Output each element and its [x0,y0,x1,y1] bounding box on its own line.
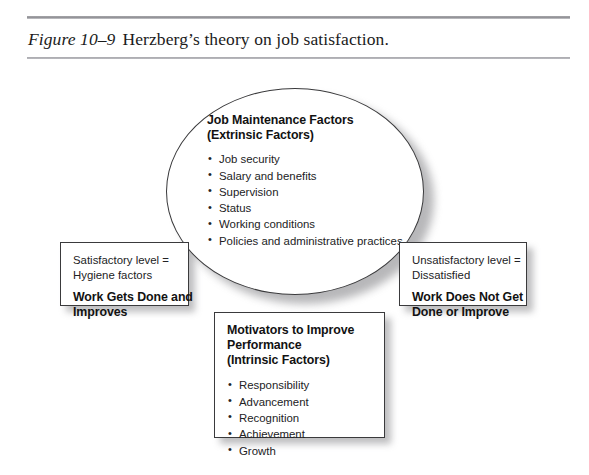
bottom-box-bullet-list: Responsibility Advancement Recognition A… [227,377,373,458]
left-box-line1: Satisfactory level = [73,253,177,268]
ellipse-heading-line1: Job Maintenance Factors [207,113,419,128]
list-item: Supervision [207,184,419,200]
list-item: Responsibility [227,377,373,393]
satisfactory-level-box: Satisfactory level = Hygiene factors Wor… [60,242,189,306]
bottom-box-heading: Motivators to Improve Performance (Intri… [227,323,373,368]
left-box-line2: Hygiene factors [73,268,177,283]
ellipse-heading-line2: (Extrinsic Factors) [207,128,419,143]
unsatisfactory-level-box: Unsatisfactory level = Dissatisfied Work… [399,242,527,306]
left-box-emphasis-line1: Work Gets Done and [73,290,177,305]
job-maintenance-factors-ellipse: Job Maintenance Factors (Extrinsic Facto… [166,88,424,295]
caption-rule-bottom [27,57,570,59]
figure-caption: Figure 10–9Herzberg’s theory on job sati… [27,19,570,57]
motivators-box: Motivators to Improve Performance (Intri… [214,312,385,438]
right-box-content: Unsatisfactory level = Dissatisfied Work… [400,243,526,328]
bottom-box-heading-line1: Motivators to Improve [227,323,373,338]
right-box-line1: Unsatisfactory level = [412,253,515,268]
list-item: Recognition [227,410,373,426]
right-box-emphasis: Work Does Not Get Done or Improve [412,290,515,320]
right-box-subtext: Unsatisfactory level = Dissatisfied [412,253,515,283]
list-item: Advancement [227,394,373,410]
list-item: Salary and benefits [207,168,419,184]
figure-number: Figure 10–9 [28,29,115,49]
left-box-subtext: Satisfactory level = Hygiene factors [73,253,177,283]
right-box-emphasis-line2: Done or Improve [412,305,515,320]
right-box-emphasis-line1: Work Does Not Get [412,290,515,305]
left-box-emphasis-line2: Improves [73,305,177,320]
ellipse-heading: Job Maintenance Factors (Extrinsic Facto… [207,113,419,143]
left-box-content: Satisfactory level = Hygiene factors Wor… [61,243,188,328]
list-item: Status [207,200,419,216]
list-item: Working conditions [207,216,419,232]
ellipse-bullet-list: Job security Salary and benefits Supervi… [207,151,419,249]
list-item: Achievement [227,426,373,442]
left-box-emphasis: Work Gets Done and Improves [73,290,177,320]
right-box-line2: Dissatisfied [412,268,515,283]
bottom-box-content: Motivators to Improve Performance (Intri… [215,313,384,467]
figure-title: Herzberg’s theory on job satisfaction. [122,29,388,49]
list-item: Job security [207,151,419,167]
ellipse-content: Job Maintenance Factors (Extrinsic Facto… [207,113,419,249]
figure-caption-block: Figure 10–9Herzberg’s theory on job sati… [27,16,570,59]
list-item: Policies and administrative practices [207,233,419,249]
bottom-box-heading-line2: Performance [227,338,373,353]
list-item: Growth [227,443,373,459]
bottom-box-heading-line3: (Intrinsic Factors) [227,353,373,368]
